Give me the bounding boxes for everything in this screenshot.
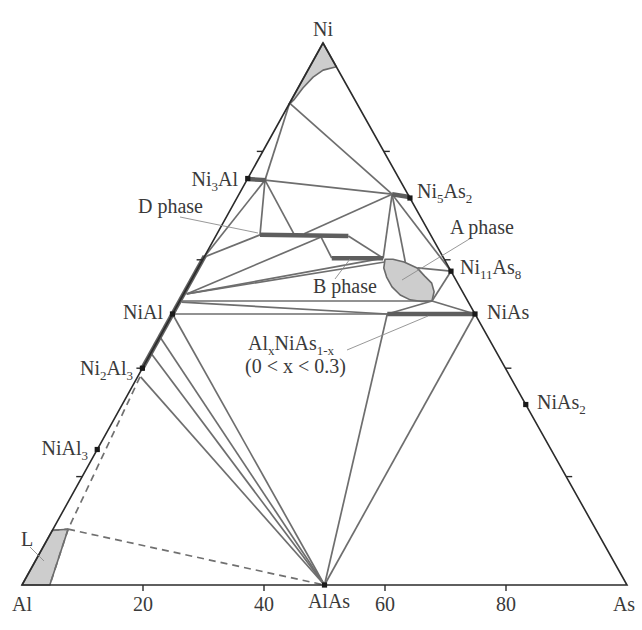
label-text: As — [444, 180, 466, 202]
label-text: Ni — [417, 180, 437, 202]
vertex-label-ni: Ni — [313, 18, 333, 40]
label-alxnias-range: (0 < x < 0.3) — [245, 355, 346, 378]
label-text: NiAs — [537, 391, 579, 413]
marker-ni11as8 — [448, 269, 453, 274]
label-b-phase: B phase — [313, 275, 377, 298]
tick-label-60: 60 — [375, 593, 395, 615]
label-text: Ni — [460, 256, 480, 278]
label-text: Ni — [313, 18, 333, 40]
label-subscript: 3 — [82, 448, 89, 463]
label-a-phase: A phase — [450, 216, 514, 239]
tick-label-40: 40 — [254, 593, 274, 615]
marker-ni3al — [245, 176, 250, 181]
label-text: Al — [218, 168, 238, 190]
label-l: L — [21, 528, 33, 550]
phase-bar-ni5as2-range — [392, 194, 409, 197]
label-subscript: 2 — [466, 191, 473, 206]
label-alas: AlAs — [308, 590, 350, 612]
vertex-label-al: Al — [12, 593, 32, 615]
marker-nias2 — [523, 402, 528, 407]
marker-alas — [322, 582, 327, 587]
label-d-phase: D phase — [138, 195, 203, 218]
label-text: NiAl — [42, 437, 82, 459]
label-subscript: 8 — [515, 267, 522, 282]
phase-bar-d-phase — [260, 235, 348, 236]
marker-nias — [472, 311, 477, 316]
marker-nial — [170, 311, 175, 316]
label-text: As — [493, 256, 515, 278]
tick-label-20: 20 — [133, 593, 153, 615]
ternary-phase-diagram: Ni Ni3Al Ni5As2 D phase A phase Ni11As8 … — [0, 0, 642, 630]
label-text: NiAs — [275, 332, 317, 354]
label-nial: NiAl — [123, 301, 163, 323]
label-subscript: 3 — [127, 368, 134, 383]
marker-ni5as2 — [407, 195, 412, 200]
label-text: Al — [107, 357, 127, 379]
label-text: Al — [248, 332, 268, 354]
label-text: Ni — [192, 168, 212, 190]
label-nias: NiAs — [487, 301, 529, 323]
label-subscript: 11 — [480, 267, 493, 282]
label-subscript: 2 — [579, 402, 586, 417]
marker-nial3 — [95, 447, 100, 452]
label-text: Ni — [80, 357, 100, 379]
marker-ni2al3 — [140, 366, 145, 371]
vertex-label-as: As — [613, 593, 635, 615]
tick-label-80: 80 — [496, 593, 516, 615]
